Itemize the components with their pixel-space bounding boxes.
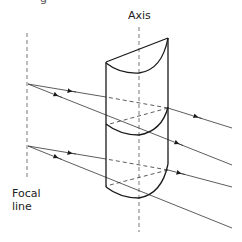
cylindrical-lens xyxy=(106,38,168,198)
arrow-icon xyxy=(56,157,62,160)
arrow-icon xyxy=(70,153,76,154)
arrow-icon xyxy=(179,173,185,175)
axis-label: Axis xyxy=(128,9,151,22)
arrow-icon xyxy=(70,91,76,92)
arrow-icon xyxy=(56,95,62,98)
arrow-icon xyxy=(196,117,202,119)
focal-line-label: Focal line xyxy=(12,187,52,213)
focal-line-label-line2: line xyxy=(12,200,52,213)
ray-group-lower xyxy=(28,146,232,228)
ray-group-upper xyxy=(28,84,232,165)
arrow-icon xyxy=(177,143,183,146)
focal-line-label-line1: Focal xyxy=(12,187,52,200)
